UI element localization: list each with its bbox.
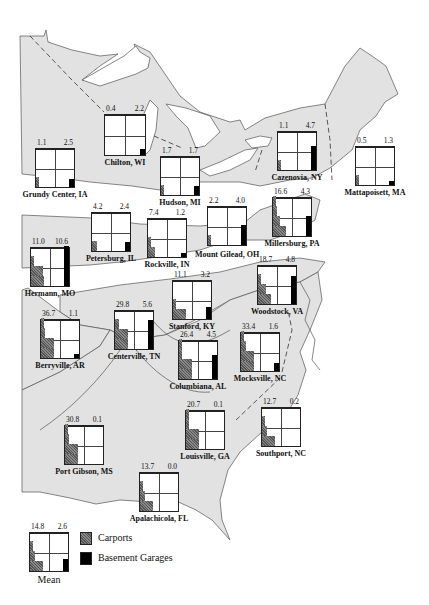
carport-bar-segment — [65, 454, 78, 465]
location-label: Columbiana, AL — [170, 382, 227, 391]
location-chart-stanford: 11.13.2Stanford, KY — [172, 280, 212, 320]
chart-frame — [64, 425, 104, 465]
carport-value: 14.8 — [31, 522, 44, 532]
garage-value: 1.7 — [189, 146, 198, 156]
carport-bar-segment — [273, 206, 277, 217]
garage-bar — [63, 559, 68, 571]
garage-value: 0.0 — [168, 462, 177, 472]
garage-value: 4.7 — [306, 121, 315, 131]
garage-bar — [74, 354, 79, 358]
carport-bar-segment — [262, 426, 267, 437]
location-chart-centerville: 29.85.6Centerville, TN — [114, 310, 154, 350]
location-label: Mattapoisett, MA — [345, 188, 406, 197]
carport-value: 11.1 — [174, 270, 187, 280]
chart-frame — [178, 340, 218, 380]
location-label: Berryville, AR — [35, 361, 84, 370]
garage-value: 2.5 — [64, 138, 73, 148]
location-chart-hudson: 1.71.7Hudson, MI — [160, 156, 200, 196]
location-label: Hermann, MO — [25, 289, 76, 298]
location-chart-apalachicola: 13.70.0Apalachicola, FL — [139, 472, 179, 512]
garage-value: 1.3 — [384, 136, 393, 146]
carport-bar-segment — [273, 196, 276, 207]
carport-bar-segment — [273, 216, 280, 227]
location-chart-portgibson: 30.80.1Port Gibson, MS — [64, 425, 104, 465]
location-chart-cazenovia: 1.14.7Cazenovia, NY — [277, 131, 317, 171]
carport-bar-segment — [186, 429, 199, 440]
garages-swatch — [80, 552, 92, 565]
location-label: Louisville, GA — [180, 452, 229, 461]
carport-bar-segment — [258, 294, 271, 305]
legend: Carports Basement Garages — [80, 532, 260, 582]
carport-bar-segment — [65, 424, 68, 435]
garage-bar — [274, 363, 279, 371]
location-label: Millersburg, PA — [265, 239, 320, 248]
carport-value: 1.1 — [37, 138, 46, 148]
chart-frame — [139, 472, 179, 512]
carport-bar-segment — [31, 266, 43, 277]
garage-bar — [311, 146, 316, 170]
garage-bar — [241, 225, 246, 245]
carport-bar-segment — [241, 361, 254, 372]
chart-frame — [35, 148, 75, 188]
carport-bar-segment — [41, 318, 44, 329]
carport-bar-segment — [262, 416, 265, 427]
carport-value: 0.5 — [357, 136, 366, 146]
garage-value: 3.2 — [201, 270, 210, 280]
location-chart-mean: 14.82.6Mean — [29, 532, 69, 572]
location-label: Port Gibson, MS — [55, 467, 113, 476]
carport-bar-segment — [36, 177, 39, 188]
carport-bar-segment — [173, 299, 176, 310]
location-label: Petersburg, IL — [86, 254, 136, 263]
garage-value: 10.6 — [55, 237, 68, 247]
garage-bar — [181, 253, 186, 257]
chart-frame — [30, 247, 70, 287]
garage-value: 2.6 — [58, 522, 67, 532]
location-label: Chilton, WI — [105, 158, 146, 167]
garage-bar — [291, 276, 296, 304]
carport-bar-segment — [115, 329, 128, 340]
garage-value: 2.2 — [135, 104, 144, 114]
garage-bar — [212, 355, 217, 379]
garage-value: 1.1 — [69, 309, 78, 319]
garage-bar — [194, 186, 199, 195]
carport-value: 12.7 — [263, 397, 276, 407]
location-chart-woodstock: 18.74.8Woodstock, VA — [257, 265, 297, 305]
carport-value: 0.4 — [106, 104, 115, 114]
location-chart-columbiana: 26.44.5Columbiana, AL — [178, 340, 218, 380]
chart-frame — [29, 532, 69, 572]
garage-bar — [148, 320, 153, 349]
location-label: Woodstock, VA — [251, 307, 303, 316]
carport-bar-segment — [179, 339, 182, 350]
garage-bar — [206, 307, 211, 319]
chart-frame — [91, 212, 131, 252]
location-label: Cazenovia, NY — [271, 173, 322, 182]
location-label: Mount Gilead, OH — [195, 250, 259, 259]
garage-value: 0.1 — [93, 415, 102, 425]
location-chart-hermann: 11.010.6Hermann, MO — [30, 247, 70, 287]
carport-bar-segment — [241, 331, 244, 342]
eastern-us-map — [0, 0, 429, 605]
carports-swatch — [80, 532, 92, 545]
carport-bar-segment — [161, 185, 164, 196]
garage-bar — [389, 181, 394, 185]
carport-bar-segment — [173, 309, 186, 320]
chart-frame — [207, 206, 247, 246]
carport-bar-segment — [179, 369, 192, 380]
chart-frame — [355, 146, 395, 186]
carport-value: 1.1 — [279, 121, 288, 131]
carport-bar-segment — [273, 226, 286, 237]
carport-bar-segment — [65, 444, 78, 455]
garages-legend-label: Basement Garages — [98, 552, 173, 563]
location-chart-petersburg: 4.22.4Petersburg, IL — [91, 212, 131, 252]
carport-bar-segment — [92, 241, 97, 252]
location-label: Hudson, MI — [159, 198, 200, 207]
location-label: Mocksville, NC — [234, 374, 286, 383]
location-chart-louisville: 20.70.1Louisville, GA — [185, 410, 225, 450]
carport-value: 30.8 — [66, 415, 79, 425]
garage-value: 4.8 — [286, 255, 295, 265]
carport-value: 7.4 — [149, 208, 158, 218]
carport-bar-segment — [208, 235, 211, 246]
carport-bar-segment — [30, 541, 33, 552]
carport-bar-segment — [179, 349, 182, 360]
garage-bar — [125, 242, 130, 251]
